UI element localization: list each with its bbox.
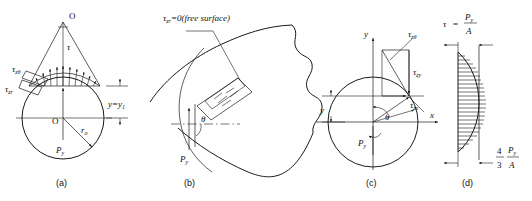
panel-c-rotation-arc xyxy=(369,133,381,137)
panel-a-stress-arrows xyxy=(36,66,96,86)
panel-d-parabolic-profile xyxy=(458,52,479,152)
panel-c-tau-zy-label: τzy xyxy=(413,67,422,78)
panel-a-force-label: Py xyxy=(55,145,65,156)
panel-c-force-label: Py xyxy=(357,138,367,149)
panel-d-caption: (d) xyxy=(462,178,473,188)
panel-d-top-formula: τ = Py A xyxy=(443,12,477,36)
panel-c-caption: (c) xyxy=(366,178,377,188)
panel-d-bot-numerator: Py xyxy=(507,145,517,156)
panel-c-tau-zx-label: τzx xyxy=(410,100,419,111)
panel-b-caption: (b) xyxy=(184,178,195,188)
panel-d-bot-denominator: A xyxy=(508,160,515,170)
panel-a-tau-ztheta-label: τzθ xyxy=(12,64,21,75)
panel-c-tau-ztheta-label: τzθ xyxy=(408,29,417,40)
panel-a-caption: (a) xyxy=(56,178,67,188)
panel-d-tau-symbol: τ xyxy=(443,19,447,29)
panel-a-tau-zr-label: τzr xyxy=(5,84,14,95)
figure-shear-stress-distribution: O O τzθ τzr τ ro Py y=y1 (a) xyxy=(0,0,532,201)
panel-c-dim-y-label: y xyxy=(319,105,324,115)
panel-d-whole-numerator: 4 xyxy=(497,146,502,156)
panel-b-annotation: τzr=0(free surface) xyxy=(163,13,230,24)
panel-d: τ = Py A 4 3 Py A (d) xyxy=(443,12,519,188)
panel-b-body-lower-edge xyxy=(178,128,313,177)
panel-b-element-hatch xyxy=(214,88,238,106)
panel-c-tangent-vector xyxy=(373,110,414,122)
panel-b: τzr=0(free surface) θ Py (b) xyxy=(150,13,322,188)
panel-c: y x y τzθ τzy τzx θ Py (c) xyxy=(316,29,438,188)
panel-d-top-denominator: A xyxy=(465,26,472,36)
panel-c-resultant-line xyxy=(382,50,409,96)
panel-c-radial-vector xyxy=(373,97,409,122)
panel-a-apex-label: O xyxy=(69,11,76,21)
panel-a-radius-label: ro xyxy=(81,125,88,136)
panel-d-equals: = xyxy=(453,19,458,29)
panel-c-theta-label: θ xyxy=(385,112,390,122)
panel-d-top-numerator: Py xyxy=(464,12,474,23)
panel-a: O O τzθ τzr τ ro Py y=y1 (a) xyxy=(5,11,128,188)
panel-a-tau-label: τ xyxy=(67,42,71,52)
panel-d-whole-denominator: 3 xyxy=(497,160,502,170)
panel-a-y-level-label: y=y1 xyxy=(107,99,125,110)
panel-c-y-axis-label: y xyxy=(363,29,368,39)
figure-canvas: O O τzθ τzr τ ro Py y=y1 (a) xyxy=(0,0,532,201)
panel-a-center-label: O xyxy=(52,116,59,126)
panel-b-force-label: Py xyxy=(179,154,189,165)
panel-b-theta-arc xyxy=(196,124,201,136)
panel-c-x-axis-label: x xyxy=(429,110,434,120)
panel-d-bottom-formula: 4 3 Py A xyxy=(496,145,519,170)
panel-a-radius-line xyxy=(63,118,92,147)
panel-b-theta-label: θ xyxy=(201,114,206,124)
